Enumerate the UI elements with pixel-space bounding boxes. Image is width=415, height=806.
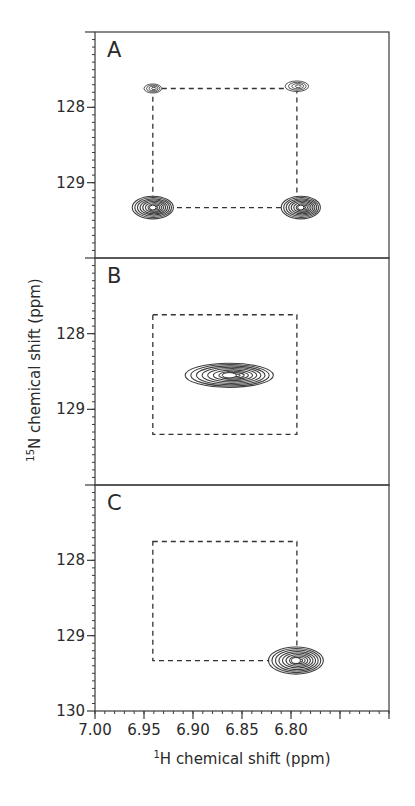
contour-peak	[185, 363, 273, 387]
y-axis-ticks: 128129	[56, 266, 95, 478]
x-tick-label: 6.90	[176, 721, 209, 739]
panel-a: 128129A	[56, 32, 389, 258]
y-axis-label: 15N chemical shift (ppm)	[25, 278, 44, 461]
panel-frame	[95, 485, 389, 711]
contour-peak	[268, 647, 323, 674]
reference-box	[153, 89, 297, 208]
y-tick-label: 129	[56, 400, 85, 418]
y-axis-label-text: N chemical shift (ppm)	[26, 278, 44, 449]
contour-peak	[144, 84, 162, 93]
x-tick-label: 6.80	[274, 721, 307, 739]
contour-peak	[132, 196, 173, 219]
x-tick-label: 6.95	[127, 721, 160, 739]
y-axis-label-superscript: 15	[25, 449, 36, 462]
x-tick-label: 7.00	[78, 721, 111, 739]
y-tick-label: 130	[56, 702, 85, 720]
y-axis-ticks: 128129	[56, 40, 95, 251]
y-tick-label: 129	[56, 174, 85, 192]
y-tick-label: 128	[56, 551, 85, 569]
y-tick-label: 128	[56, 98, 85, 116]
y-tick-label: 128	[56, 325, 85, 343]
nmr-figure: 128129A128129B128129130C 7.006.956.906.8…	[0, 0, 415, 806]
panels-group: 128129A128129B128129130C	[56, 32, 389, 720]
x-axis: 7.006.956.906.856.80	[78, 711, 389, 739]
panel-c: 128129130C	[56, 485, 389, 720]
reference-box	[153, 542, 297, 661]
y-axis-ticks: 128129130	[56, 493, 95, 720]
panel-label: C	[107, 491, 122, 515]
x-axis-label-text: H chemical shift (ppm)	[160, 750, 331, 768]
contour-peak	[281, 196, 320, 219]
panel-label: B	[107, 264, 121, 288]
panel-frame	[95, 32, 389, 258]
x-tick-label: 6.85	[225, 721, 258, 739]
panel-b: 128129B	[56, 258, 389, 485]
y-tick-label: 129	[56, 627, 85, 645]
x-axis-label: 1H chemical shift (ppm)	[153, 749, 330, 768]
contour-peak	[285, 81, 309, 92]
panel-label: A	[107, 38, 122, 62]
